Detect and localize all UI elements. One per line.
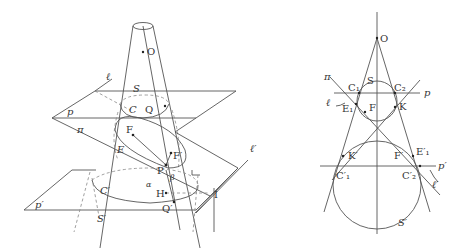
label-ell: ℓ — [106, 71, 110, 82]
point-Q-prime — [173, 201, 176, 204]
point-K — [394, 106, 396, 108]
left-figure: O ℓ S p C Q π F E F′ P β α C′ H I p′ Q′ … — [24, 23, 257, 248]
point-F — [364, 111, 366, 113]
label-pi: π — [76, 124, 84, 135]
conic-section-diagram: O ℓ S p C Q π F E F′ P β α C′ H I p′ Q′ … — [0, 0, 466, 248]
label-ell: ℓ — [326, 97, 330, 108]
label-Q-prime: Q′ — [162, 203, 173, 214]
label-pi: π — [323, 71, 331, 82]
label-E1-prime: E′₁ — [416, 146, 430, 157]
point-Q — [164, 105, 166, 107]
label-beta: β — [169, 173, 175, 182]
plane-p — [52, 91, 236, 118]
label-F: F — [369, 102, 376, 113]
label-alpha: α — [146, 180, 152, 189]
point-O — [142, 51, 144, 53]
label-F-prime: F′ — [394, 150, 404, 161]
label-p: p — [67, 106, 74, 117]
label-O: O — [380, 33, 388, 44]
point-E1 — [355, 103, 357, 105]
label-E: E — [116, 144, 125, 155]
label-P: P — [157, 165, 164, 176]
point-F-prime — [412, 155, 414, 157]
label-O: O — [147, 46, 155, 57]
label-ell-prime: ℓ′ — [432, 179, 439, 190]
right-figure: O π S C₁ C₂ p ℓ E₁ F K K′ F′ E′₁ p′ C′₁ … — [320, 12, 447, 234]
label-Q: Q — [145, 104, 153, 115]
label-C-prime: C′ — [100, 185, 111, 196]
label-K-prime: K′ — [348, 150, 358, 161]
sphere-S-prime-left — [74, 172, 90, 232]
label-C1: C₁ — [348, 82, 360, 93]
generator-right — [377, 38, 430, 212]
label-C1-prime: C′₁ — [336, 170, 350, 181]
label-S-prime: S′ — [398, 217, 408, 228]
point-O — [376, 37, 378, 39]
point-P — [165, 164, 168, 167]
label-ell-prime: ℓ′ — [250, 143, 257, 154]
point-K-prime — [342, 155, 344, 157]
label-F: F — [126, 124, 133, 135]
label-E1: E₁ — [342, 103, 353, 114]
label-H: H — [156, 188, 165, 199]
plane-p-prime-notch — [192, 170, 200, 175]
label-p: p — [424, 87, 431, 98]
line-ell-prime — [196, 160, 248, 213]
label-C2-prime: C′₂ — [402, 170, 416, 181]
point-E1-prime — [419, 165, 421, 167]
label-F-prime: F′ — [173, 150, 183, 161]
generator-left — [324, 38, 377, 212]
label-I: I — [214, 189, 218, 200]
label-K: K — [399, 101, 407, 112]
label-S-prime: S′ — [97, 213, 107, 224]
sphere-S-prime-right — [193, 175, 198, 232]
label-S: S — [367, 75, 374, 86]
label-S: S — [133, 83, 140, 94]
point-H — [165, 192, 167, 194]
tangent-line-K — [332, 80, 420, 180]
label-p-prime: p′ — [438, 160, 447, 171]
label-C: C — [129, 104, 137, 115]
plane-p-prime-bottom — [24, 168, 238, 210]
point-F-prime — [170, 152, 173, 155]
diagram-svg: O ℓ S p C Q π F E F′ P β α C′ H I p′ Q′ … — [0, 0, 466, 248]
circle-C-back — [120, 95, 169, 104]
label-C2: C₂ — [394, 82, 406, 93]
label-p-prime: p′ — [35, 199, 44, 210]
plane-pi-link — [175, 118, 196, 132]
line-ell-dashed — [95, 91, 130, 110]
